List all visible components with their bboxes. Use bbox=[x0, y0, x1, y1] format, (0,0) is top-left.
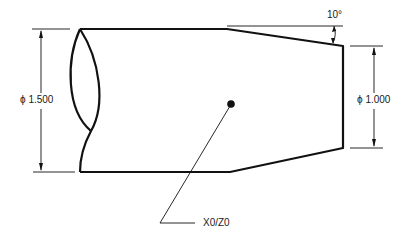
arrowhead-down-icon bbox=[39, 163, 43, 171]
arrowhead-up-icon bbox=[39, 30, 43, 38]
break-line-right-curve bbox=[80, 29, 99, 172]
small-diameter-label: ϕ 1.000 bbox=[356, 94, 391, 106]
arrowhead-down-icon bbox=[372, 139, 376, 147]
arrowhead-icon bbox=[332, 26, 336, 32]
origin-dot-icon bbox=[227, 100, 235, 108]
leader-line bbox=[160, 106, 230, 223]
origin-label: X0/Z0 bbox=[203, 217, 230, 229]
part-outline bbox=[71, 29, 343, 172]
arrowhead-icon bbox=[331, 38, 335, 44]
large-diameter-label: ϕ 1.500 bbox=[19, 94, 54, 106]
arrowhead-up-icon bbox=[372, 47, 376, 55]
dimension-taper-angle bbox=[227, 26, 343, 44]
origin-marker bbox=[160, 100, 235, 223]
part-drawing bbox=[0, 0, 413, 239]
taper-angle-label: 10° bbox=[327, 9, 342, 21]
part-profile-edge bbox=[80, 29, 343, 172]
